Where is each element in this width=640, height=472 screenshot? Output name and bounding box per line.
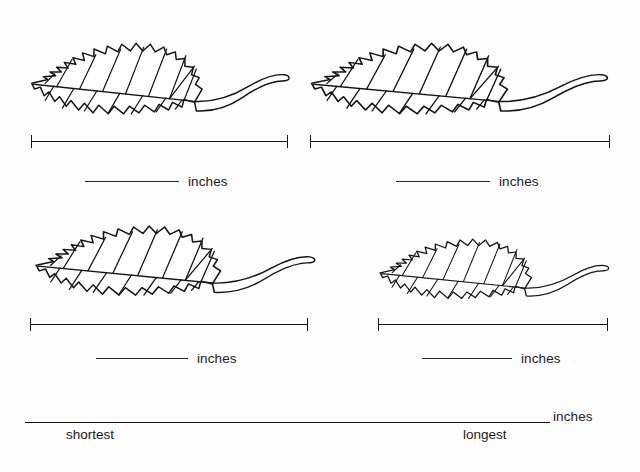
leaf-illustration-2 (305, 30, 613, 130)
longest-label: longest (463, 427, 507, 442)
answer-blank-1[interactable] (85, 181, 179, 182)
leaf-illustration-1 (26, 30, 294, 130)
ordering-unit-label: inches (553, 409, 593, 424)
answer-row-3: inches (96, 351, 237, 366)
bar-end-cap-right (307, 318, 308, 331)
answer-blank-2[interactable] (396, 181, 490, 182)
leaf-icon (26, 30, 294, 130)
measurement-bar-4 (378, 318, 608, 331)
unit-label-1: inches (188, 174, 228, 189)
ordering-answer-blank[interactable] (25, 422, 550, 423)
leaf-icon (375, 228, 613, 312)
measurement-bar-1 (31, 135, 288, 148)
measurement-bar-2 (310, 135, 610, 148)
measurement-bar-3 (30, 318, 308, 331)
answer-row-1: inches (85, 174, 228, 189)
ordering-section: inches shortest longest (0, 400, 640, 460)
leaf-illustration-4 (375, 228, 613, 312)
leaf-icon (30, 213, 320, 311)
bar-end-cap-right (607, 318, 608, 331)
bar-line (30, 324, 308, 325)
bar-line (31, 141, 288, 142)
bar-end-cap-right (287, 135, 288, 148)
answer-row-2: inches (396, 174, 539, 189)
bar-line (310, 141, 610, 142)
leaf-illustration-3 (30, 213, 320, 311)
unit-label-3: inches (197, 351, 237, 366)
answer-row-4: inches (422, 351, 561, 366)
shortest-label: shortest (66, 427, 114, 442)
answer-blank-3[interactable] (96, 358, 188, 359)
unit-label-2: inches (499, 174, 539, 189)
leaf-icon (305, 30, 613, 130)
bar-end-cap-right (609, 135, 610, 148)
leaf-measurement-worksheet: inches in (0, 0, 640, 472)
answer-blank-4[interactable] (422, 358, 512, 359)
unit-label-4: inches (521, 351, 561, 366)
bar-line (378, 324, 608, 325)
